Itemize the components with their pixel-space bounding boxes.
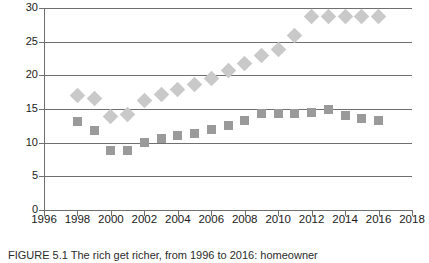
x-axis-labels: 1996199820002002200420062008201020122014… bbox=[44, 212, 416, 228]
data-point-square-2003 bbox=[157, 134, 166, 143]
data-point-diamond-2003 bbox=[153, 86, 169, 102]
figure-caption: FIGURE 5.1 The rich get richer, from 199… bbox=[8, 249, 412, 262]
gridline-25 bbox=[44, 42, 412, 43]
data-point-square-2005 bbox=[190, 129, 199, 138]
data-point-square-2001 bbox=[123, 146, 132, 155]
data-point-square-2007 bbox=[224, 121, 233, 130]
gridline-10 bbox=[44, 143, 412, 144]
data-point-diamond-2010 bbox=[270, 42, 286, 58]
data-point-diamond-2013 bbox=[321, 9, 337, 25]
y-tick-20 bbox=[39, 75, 44, 76]
data-point-diamond-2015 bbox=[354, 9, 370, 25]
y-tick-label-10: 10 bbox=[12, 137, 38, 148]
data-point-square-2013 bbox=[324, 105, 333, 114]
y-tick-label-15: 15 bbox=[12, 103, 38, 114]
gridline-15 bbox=[44, 109, 412, 110]
y-tick-5 bbox=[39, 176, 44, 177]
y-tick-label-5: 5 bbox=[12, 170, 38, 181]
data-point-square-1998 bbox=[73, 117, 82, 126]
gridline-30 bbox=[44, 8, 412, 9]
data-point-square-2002 bbox=[140, 138, 149, 147]
y-tick-label-25: 25 bbox=[12, 36, 38, 47]
plot-area bbox=[44, 8, 412, 210]
data-point-square-2012 bbox=[307, 108, 316, 117]
data-point-diamond-2005 bbox=[187, 76, 203, 92]
y-tick-30 bbox=[39, 8, 44, 9]
y-tick-15 bbox=[39, 109, 44, 110]
data-point-diamond-2004 bbox=[170, 82, 186, 98]
data-point-square-2009 bbox=[257, 109, 266, 118]
y-tick-label-30: 30 bbox=[12, 2, 38, 13]
data-point-diamond-2002 bbox=[137, 92, 153, 108]
data-point-diamond-1998 bbox=[70, 88, 86, 104]
y-tick-label-20: 20 bbox=[12, 69, 38, 80]
data-point-square-2016 bbox=[374, 116, 383, 125]
x-axis-line bbox=[44, 210, 412, 211]
data-point-diamond-2000 bbox=[103, 109, 119, 125]
data-point-diamond-2012 bbox=[304, 8, 320, 24]
data-point-square-2010 bbox=[274, 109, 283, 118]
data-point-diamond-2006 bbox=[203, 71, 219, 87]
data-point-diamond-2008 bbox=[237, 55, 253, 71]
data-point-diamond-1999 bbox=[86, 91, 102, 107]
data-point-square-2004 bbox=[173, 131, 182, 140]
y-tick-25 bbox=[39, 42, 44, 43]
x-tick-label-2018: 2018 bbox=[392, 212, 429, 226]
data-point-square-2000 bbox=[106, 146, 115, 155]
y-tick-10 bbox=[39, 143, 44, 144]
data-point-diamond-2014 bbox=[337, 9, 353, 25]
data-point-square-1999 bbox=[90, 126, 99, 135]
y-axis-labels: 051015202530 bbox=[8, 8, 38, 210]
data-point-square-2008 bbox=[240, 116, 249, 125]
data-point-diamond-2009 bbox=[254, 48, 270, 64]
data-point-square-2011 bbox=[290, 109, 299, 118]
data-point-square-2015 bbox=[357, 114, 366, 123]
data-point-diamond-2016 bbox=[371, 9, 387, 25]
data-point-square-2014 bbox=[341, 111, 350, 120]
gridline-5 bbox=[44, 176, 412, 177]
data-point-square-2006 bbox=[207, 125, 216, 134]
